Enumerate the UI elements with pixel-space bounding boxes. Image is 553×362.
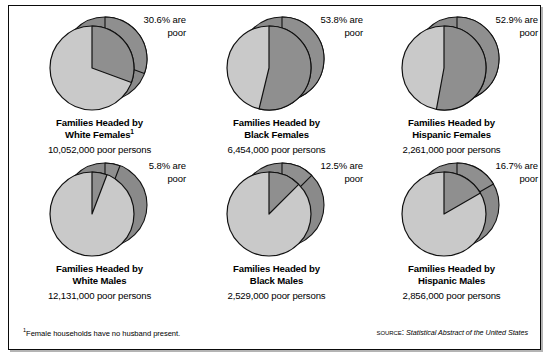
source-label: Source: [376, 327, 404, 337]
caption-title-text: White Females [65, 129, 130, 140]
callout-poor: poor [289, 27, 363, 40]
caption-title-text: Black Males [250, 275, 303, 286]
pie-wrapper: 53.8% are poor [188, 12, 365, 116]
chart-cell-white-females: 30.6% are poor Families Headed by White … [11, 12, 188, 156]
caption-count: 6,454,000 poor persons [188, 143, 365, 156]
chart-cell-hispanic-females: 52.9% are poor Families Headed by Hispan… [363, 12, 540, 156]
callout-percent: 52.9% are [464, 14, 538, 27]
source-title: Statistical Abstract of the United State… [406, 328, 528, 337]
chart-caption: Families Headed by White Males 12,131,00… [11, 263, 188, 302]
caption-title-line1: Families Headed by [188, 117, 365, 129]
figure-panel: 30.6% are poor Families Headed by White … [8, 5, 541, 350]
chart-cell-black-males: 12.5% are poor Families Headed by Black … [188, 158, 365, 302]
pie-wrapper: 12.5% are poor [188, 158, 365, 262]
callout-white-females: 30.6% are poor [112, 14, 186, 39]
caption-title-line1: Families Headed by [188, 263, 365, 275]
callout-black-males: 12.5% are poor [289, 160, 363, 185]
caption-count: 2,856,000 poor persons [363, 289, 540, 302]
callout-percent: 16.7% are [464, 160, 538, 173]
chart-caption: Families Headed by Black Males 2,529,000… [188, 263, 365, 302]
callout-white-males: 5.8% are poor [112, 160, 186, 185]
caption-footnote-marker: 1 [130, 128, 134, 135]
callout-percent: 30.6% are [112, 14, 186, 27]
chart-caption: Families Headed by Hispanic Females 2,26… [363, 117, 540, 156]
footnote: 1Female households have no husband prese… [23, 329, 180, 338]
chart-cell-white-males: 5.8% are poor Families Headed by White M… [11, 158, 188, 302]
chart-cell-hispanic-males: 16.7% are poor Families Headed by Hispan… [363, 158, 540, 302]
caption-title-text: White Males [73, 275, 127, 286]
caption-title-line1: Families Headed by [11, 117, 188, 129]
caption-title-line2: White Males [11, 275, 188, 287]
callout-hispanic-males: 16.7% are poor [464, 160, 538, 185]
callout-poor: poor [464, 27, 538, 40]
source-line: Source: Statistical Abstract of the Unit… [376, 327, 528, 337]
chart-caption: Families Headed by Hispanic Males 2,856,… [363, 263, 540, 302]
caption-title-line1: Families Headed by [363, 263, 540, 275]
caption-title-line1: Families Headed by [363, 117, 540, 129]
caption-title-line2: Hispanic Females [363, 129, 540, 141]
footnote-text: Female households have no husband presen… [26, 329, 180, 338]
caption-count: 2,261,000 poor persons [363, 143, 540, 156]
pie-wrapper: 52.9% are poor [363, 12, 540, 116]
pie-wrapper: 5.8% are poor [11, 158, 188, 262]
caption-count: 12,131,000 poor persons [11, 289, 188, 302]
caption-count: 10,052,000 poor persons [11, 143, 188, 156]
callout-poor: poor [112, 27, 186, 40]
caption-title-text: Hispanic Females [412, 129, 491, 140]
callout-poor: poor [464, 173, 538, 186]
callout-percent: 12.5% are [289, 160, 363, 173]
caption-title-line2: Black Males [188, 275, 365, 287]
caption-title-text: Black Females [244, 129, 309, 140]
chart-cell-black-females: 53.8% are poor Families Headed by Black … [188, 12, 365, 156]
pie-wrapper: 30.6% are poor [11, 12, 188, 116]
callout-black-females: 53.8% are poor [289, 14, 363, 39]
pie-wrapper: 16.7% are poor [363, 158, 540, 262]
callout-hispanic-females: 52.9% are poor [464, 14, 538, 39]
chart-caption: Families Headed by Black Females 6,454,0… [188, 117, 365, 156]
caption-title-line1: Families Headed by [11, 263, 188, 275]
callout-percent: 53.8% are [289, 14, 363, 27]
callout-poor: poor [112, 173, 186, 186]
caption-title-line2: White Females1 [11, 129, 188, 141]
caption-title-line2: Hispanic Males [363, 275, 540, 287]
callout-poor: poor [289, 173, 363, 186]
callout-percent: 5.8% are [112, 160, 186, 173]
caption-title-line2: Black Females [188, 129, 365, 141]
caption-count: 2,529,000 poor persons [188, 289, 365, 302]
caption-title-text: Hispanic Males [418, 275, 485, 286]
chart-caption: Families Headed by White Females1 10,052… [11, 117, 188, 156]
pie-chart-grid: 30.6% are poor Families Headed by White … [9, 6, 540, 306]
